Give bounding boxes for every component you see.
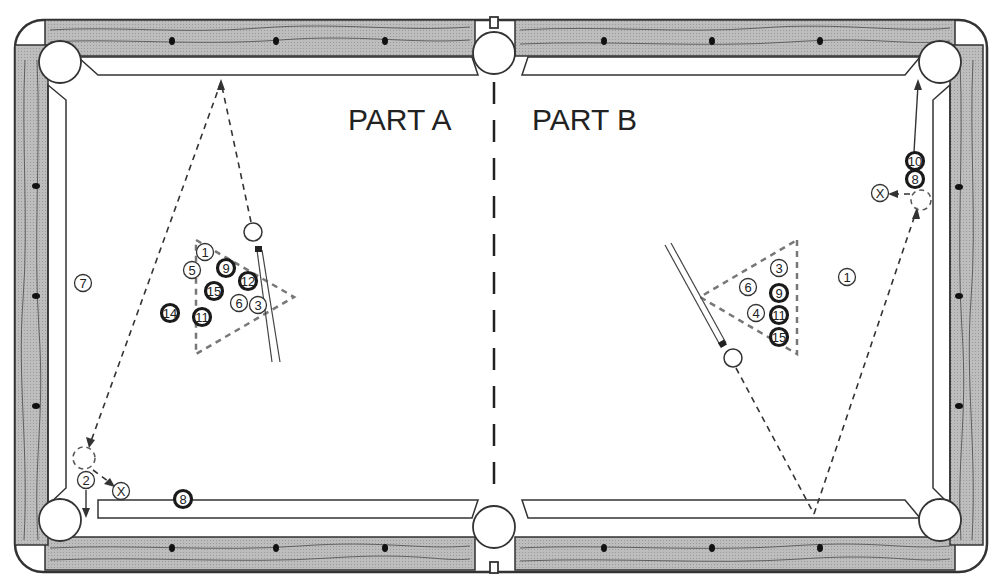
bottom-rail-left xyxy=(45,537,475,570)
ball-number: 15 xyxy=(772,330,786,345)
top-rail-left xyxy=(45,20,475,56)
ball-number: 3 xyxy=(254,298,261,313)
ball-number: 5 xyxy=(188,263,195,278)
ball-15: 15 xyxy=(206,283,223,300)
bottom-rail-right xyxy=(515,537,955,570)
ball-11: 11 xyxy=(771,307,788,324)
ball-number: 9 xyxy=(775,286,782,301)
ball-9: 9 xyxy=(771,285,788,302)
part-a-label: PART A xyxy=(348,103,451,136)
pocket-bottom-right xyxy=(919,499,961,541)
ball-14: 14 xyxy=(162,305,179,322)
ball-6: 6 xyxy=(231,295,248,312)
left-rail xyxy=(15,45,48,545)
ball-number: 8 xyxy=(911,172,918,187)
right-rail xyxy=(950,45,983,545)
ball-number: 3 xyxy=(775,261,782,276)
ball-number: 4 xyxy=(752,306,759,321)
ball-number: 6 xyxy=(235,296,242,311)
ball-number: 8 xyxy=(179,492,186,507)
ball-3: 3 xyxy=(771,260,788,277)
ball-number: 7 xyxy=(79,276,86,291)
top-rail-right xyxy=(515,20,955,56)
ball-number: X xyxy=(876,186,885,201)
ball-10: 10 xyxy=(907,153,924,170)
pocket-top-middle xyxy=(473,32,515,74)
ball-number: 6 xyxy=(744,280,751,295)
ball-number: 10 xyxy=(908,154,922,169)
cue-ball-a xyxy=(244,223,262,241)
ball-1: 1 xyxy=(197,244,214,261)
pocket-bottom-left xyxy=(39,499,81,541)
ball-number: 14 xyxy=(163,306,177,321)
ball-number: 1 xyxy=(201,245,208,260)
ball-8: 8 xyxy=(175,491,192,508)
ball-7: 7 xyxy=(75,275,92,292)
cue-ball-b xyxy=(724,349,742,367)
ball-15: 15 xyxy=(771,329,788,346)
ball-12: 12 xyxy=(240,273,257,290)
ball-number: 12 xyxy=(241,274,255,289)
ball-11: 11 xyxy=(194,309,211,326)
ball-number: 11 xyxy=(195,310,209,325)
pocket-top-left xyxy=(39,41,81,83)
ball-number: 1 xyxy=(843,270,850,285)
ball-number: 15 xyxy=(207,284,221,299)
ball-number: 2 xyxy=(82,473,89,488)
ball-2: 2 xyxy=(78,472,95,489)
pocket-top-right xyxy=(919,41,961,83)
ball-4: 4 xyxy=(748,305,765,322)
ball-8: 8 xyxy=(907,171,924,188)
ball-number: 11 xyxy=(772,308,786,323)
pool-table-diagram: PART A PART B xyxy=(0,0,1000,582)
target-x-marker: X xyxy=(872,185,889,202)
target-x-marker: X xyxy=(113,483,130,500)
ball-number: 9 xyxy=(222,261,229,276)
table-frame xyxy=(15,17,987,573)
ball-6: 6 xyxy=(740,279,757,296)
ball-3: 3 xyxy=(250,297,267,314)
ball-9: 9 xyxy=(218,260,235,277)
cushion-outline xyxy=(67,57,936,518)
pocket-bottom-middle xyxy=(473,506,515,548)
ball-5: 5 xyxy=(184,262,201,279)
part-b-label: PART B xyxy=(532,103,637,136)
ball-1: 1 xyxy=(839,269,856,286)
ball-number: X xyxy=(117,484,126,499)
